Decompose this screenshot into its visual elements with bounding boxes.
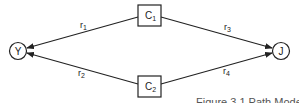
path-diagram: Y J C1 C2 r1 r2 r3 r4 <box>0 0 299 103</box>
edge-label-r3: r3 <box>224 22 231 33</box>
figure-caption: Figure 3.1 Path Model <box>196 96 299 103</box>
edge-label-r1: r1 <box>80 20 87 31</box>
node-c1: C1 <box>138 5 161 26</box>
edge-c2-to-y <box>27 53 138 84</box>
node-c2: C2 <box>138 76 161 97</box>
node-j: J <box>273 43 290 60</box>
edge-label-r2: r2 <box>78 68 85 79</box>
edge-c2-to-j <box>161 53 272 84</box>
node-y: Y <box>10 43 27 60</box>
node-j-label: J <box>279 46 284 57</box>
node-y-label: Y <box>15 46 22 57</box>
edge-c1-to-j <box>161 17 272 48</box>
edge-label-r4: r4 <box>223 66 230 77</box>
